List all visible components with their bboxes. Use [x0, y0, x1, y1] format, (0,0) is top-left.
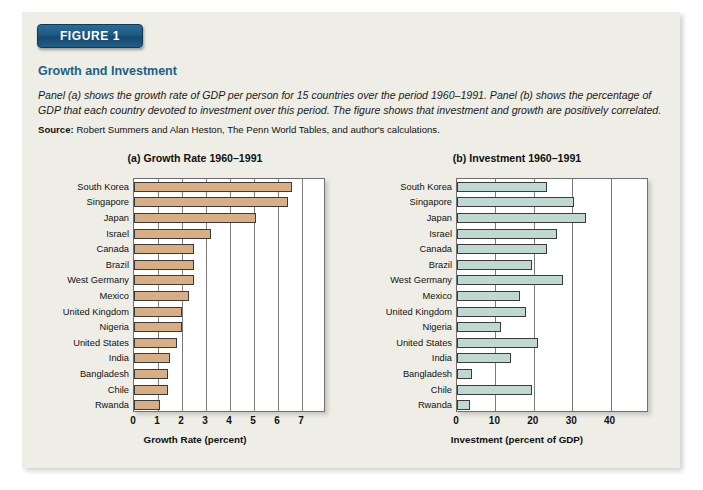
bar-row: Mexico [457, 291, 647, 301]
chart-panel-b: (b) Investment 1960–1991 South KoreaSing… [358, 152, 676, 452]
figure-source-label: Source: [38, 124, 74, 135]
figure-title: Growth and Investment [38, 64, 177, 78]
bar-row: Nigeria [134, 322, 324, 332]
bar [457, 275, 563, 285]
bar-row: West Germany [457, 275, 647, 285]
panel-a-plot-area: South KoreaSingaporeJapanIsraelCanadaBra… [30, 178, 360, 448]
x-tick-label: 10 [489, 415, 500, 426]
x-tick-label: 0 [130, 415, 136, 426]
bar [457, 291, 520, 301]
x-tick-label: 30 [566, 415, 577, 426]
bar-row: Chile [134, 385, 324, 395]
bar [457, 307, 526, 317]
bar [457, 244, 547, 254]
panel-b-plot: South KoreaSingaporeJapanIsraelCanadaBra… [456, 178, 648, 412]
bar-row: India [134, 353, 324, 363]
bar [457, 353, 511, 363]
category-label: West Germany [390, 275, 452, 285]
figure-page: FIGURE 1 Growth and Investment Panel (a)… [0, 0, 703, 490]
category-label: Israel [429, 229, 452, 239]
bar [134, 291, 189, 301]
x-tick-label: 5 [250, 415, 256, 426]
category-label: West Germany [67, 275, 129, 285]
bar-row: Nigeria [457, 322, 647, 332]
category-label: United States [73, 338, 129, 348]
category-label: United States [396, 338, 452, 348]
category-label: Nigeria [423, 322, 452, 332]
bar [134, 197, 288, 207]
category-label: Rwanda [418, 400, 452, 410]
bar [134, 307, 182, 317]
bar-row: United Kingdom [134, 307, 324, 317]
bar-row: Canada [134, 244, 324, 254]
bar [457, 400, 470, 410]
bar-row: Japan [134, 213, 324, 223]
panel-a-plot: South KoreaSingaporeJapanIsraelCanadaBra… [133, 178, 325, 412]
bar [134, 353, 170, 363]
figure-banner: FIGURE 1 [37, 24, 143, 48]
panel-a-title: (a) Growth Rate 1960–1991 [30, 152, 360, 164]
figure-description: Panel (a) shows the growth rate of GDP p… [38, 88, 666, 118]
bar-row: Brazil [134, 260, 324, 270]
bar [134, 275, 194, 285]
category-label: South Korea [400, 182, 452, 192]
category-label: Israel [106, 229, 129, 239]
x-tick-label: 6 [274, 415, 280, 426]
bar-row: United Kingdom [457, 307, 647, 317]
x-tick-label: 3 [202, 415, 208, 426]
category-label: India [432, 353, 452, 363]
category-label: Japan [427, 213, 452, 223]
category-label: Canada [419, 244, 452, 254]
bar [457, 322, 501, 332]
category-label: South Korea [77, 182, 129, 192]
category-label: Nigeria [100, 322, 129, 332]
category-label: Japan [104, 213, 129, 223]
category-label: Mexico [423, 291, 452, 301]
category-label: Singapore [410, 197, 452, 207]
x-tick-label: 1 [154, 415, 160, 426]
category-label: Singapore [87, 197, 129, 207]
bar-row: Rwanda [134, 400, 324, 410]
bar-row: United States [457, 338, 647, 348]
bar [134, 369, 168, 379]
bar [457, 385, 532, 395]
bar [457, 260, 532, 270]
category-label: United Kingdom [63, 307, 129, 317]
bar-row: Canada [457, 244, 647, 254]
bar-row: Bangladesh [134, 369, 324, 379]
category-label: Chile [431, 385, 452, 395]
category-label: Mexico [100, 291, 129, 301]
bar [134, 260, 194, 270]
category-label: United Kingdom [386, 307, 452, 317]
bar [134, 385, 168, 395]
x-tick-label: 4 [226, 415, 232, 426]
bar [134, 244, 194, 254]
bar-row: India [457, 353, 647, 363]
figure-source-text: Robert Summers and Alan Heston, The Penn… [74, 124, 440, 135]
panel-a-axis-title: Growth Rate (percent) [30, 434, 360, 445]
bar-row: Japan [457, 213, 647, 223]
x-tick-label: 7 [298, 415, 304, 426]
x-tick-label: 2 [178, 415, 184, 426]
panel-b-title: (b) Investment 1960–1991 [358, 152, 676, 164]
bar [457, 369, 472, 379]
bar [134, 229, 211, 239]
bar-row: United States [134, 338, 324, 348]
x-tick-label: 0 [453, 415, 459, 426]
category-label: Canada [96, 244, 129, 254]
category-label: Rwanda [95, 400, 129, 410]
bar [457, 229, 557, 239]
bar-row: South Korea [134, 182, 324, 192]
bar [457, 197, 574, 207]
x-tick-label: 20 [527, 415, 538, 426]
bar-row: Singapore [134, 197, 324, 207]
bar-row: Chile [457, 385, 647, 395]
category-label: Bangladesh [80, 369, 129, 379]
category-label: India [109, 353, 129, 363]
panel-b-axis-title: Investment (percent of GDP) [358, 434, 676, 445]
bar-row: South Korea [457, 182, 647, 192]
bar-row: Bangladesh [457, 369, 647, 379]
bar [457, 182, 547, 192]
bar-row: Brazil [457, 260, 647, 270]
figure-card: FIGURE 1 Growth and Investment Panel (a)… [22, 12, 680, 468]
